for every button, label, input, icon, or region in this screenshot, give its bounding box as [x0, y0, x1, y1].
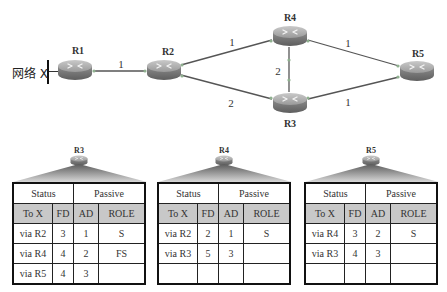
cell-via: via R5: [13, 264, 53, 285]
router-icon-r5[interactable]: [399, 60, 435, 82]
cell-via: via R2: [158, 224, 198, 244]
network-topology: 网络 X R1 R2 R4 R3 R5 1 1 2 2 1 1: [0, 0, 447, 150]
link-r4-r5: [308, 40, 399, 66]
header-to-x: To X: [13, 204, 53, 224]
header-role: ROLE: [391, 204, 438, 224]
link-cost-r2-r4: 1: [229, 36, 235, 48]
cell-ad: 3: [366, 244, 391, 264]
cell-fd: 4: [53, 264, 74, 285]
cell-fd: 5: [198, 244, 219, 264]
link-cost-r3-r5: 1: [345, 96, 351, 108]
table-router-label: R4: [219, 146, 229, 155]
header-fd: FD: [345, 204, 366, 224]
table-row: via R2 2 1 S: [158, 224, 290, 244]
cell-via: via R4: [305, 224, 345, 244]
link-r2-r4: [181, 40, 272, 65]
cell-fd: [345, 264, 366, 285]
cell-role: [244, 264, 291, 285]
table-router-label: R5: [366, 146, 376, 155]
table-row: via R2 3 1 S: [13, 224, 145, 244]
table-router-label: R3: [74, 146, 84, 155]
link-cost-r4-r3: 2: [275, 65, 281, 77]
cell-fd: [198, 264, 219, 285]
router-label-r3: R3: [284, 118, 296, 129]
header-role: ROLE: [244, 204, 291, 224]
cell-role: [99, 264, 146, 285]
table-header-router-r3: R3: [12, 146, 148, 182]
cell-fd: 4: [345, 244, 366, 264]
status-value: Passive: [74, 183, 146, 204]
cell-fd: 2: [198, 224, 219, 244]
routing-table: Status Passive To X FD AD ROLE via R2 2 …: [157, 182, 291, 285]
cell-ad: 3: [74, 264, 99, 285]
cell-ad: 2: [74, 244, 99, 264]
topology-table-r4: R4 Status Passive To X FD AD ROLE via R2…: [157, 146, 293, 285]
link-cost-r2-r3: 2: [228, 97, 234, 109]
cell-via: via R4: [13, 244, 53, 264]
link-cost-r4-r5: 1: [345, 37, 351, 49]
link-r3-r5: [308, 77, 399, 99]
router-icon-r4[interactable]: [272, 25, 308, 47]
cell-via: [158, 264, 198, 285]
cell-role: FS: [99, 244, 146, 264]
network-x-label: 网络 X: [12, 64, 48, 81]
table-row: via R3 4 3: [305, 244, 437, 264]
cell-via: via R3: [158, 244, 198, 264]
cell-role: [391, 264, 438, 285]
router-label-r5: R5: [412, 48, 424, 59]
cell-fd: 3: [345, 224, 366, 244]
cell-ad: 2: [366, 224, 391, 244]
cell-role: [391, 244, 438, 264]
header-role: ROLE: [99, 204, 146, 224]
router-icon-r2[interactable]: [146, 59, 182, 81]
fan-shape: [157, 164, 293, 182]
cell-via: via R3: [305, 244, 345, 264]
topology-table-r3: R3 Status Passive To X FD AD ROLE via R2…: [12, 146, 148, 285]
router-label-r1: R1: [72, 45, 84, 56]
cell-ad: 3: [219, 244, 244, 264]
table-row: [305, 264, 437, 285]
router-label-r4: R4: [284, 12, 296, 23]
header-to-x: To X: [158, 204, 198, 224]
cell-role: [244, 244, 291, 264]
header-ad: AD: [74, 204, 99, 224]
fan-shape: [12, 164, 148, 182]
header-ad: AD: [219, 204, 244, 224]
header-ad: AD: [366, 204, 391, 224]
router-icon-r3[interactable]: [272, 92, 308, 114]
table-row: [158, 264, 290, 285]
cell-ad: [219, 264, 244, 285]
header-to-x: To X: [305, 204, 345, 224]
router-icon-r1[interactable]: [57, 59, 93, 81]
cell-role: S: [244, 224, 291, 244]
status-label: Status: [158, 183, 219, 204]
link-cost-r1-r2: 1: [118, 58, 124, 70]
status-value: Passive: [366, 183, 438, 204]
table-row: via R4 4 2 FS: [13, 244, 145, 264]
cell-fd: 3: [53, 224, 74, 244]
table-header-router-r4: R4: [157, 146, 293, 182]
header-fd: FD: [53, 204, 74, 224]
router-label-r2: R2: [162, 46, 174, 57]
cell-ad: 1: [74, 224, 99, 244]
status-label: Status: [305, 183, 366, 204]
status-value: Passive: [219, 183, 291, 204]
cell-role: S: [391, 224, 438, 244]
topology-table-r5: R5 Status Passive To X FD AD ROLE via R4…: [304, 146, 440, 285]
table-row: via R5 4 3: [13, 264, 145, 285]
table-row: via R4 3 2 S: [305, 224, 437, 244]
routing-table: Status Passive To X FD AD ROLE via R4 3 …: [304, 182, 438, 285]
cell-fd: 4: [53, 244, 74, 264]
cell-via: [305, 264, 345, 285]
header-fd: FD: [198, 204, 219, 224]
status-label: Status: [13, 183, 74, 204]
cell-ad: 1: [219, 224, 244, 244]
cell-ad: [366, 264, 391, 285]
table-row: via R3 5 3: [158, 244, 290, 264]
table-header-router-r5: R5: [304, 146, 440, 182]
routing-table: Status Passive To X FD AD ROLE via R2 3 …: [12, 182, 146, 285]
link-r2-r3: [181, 75, 272, 99]
cell-via: via R2: [13, 224, 53, 244]
cell-role: S: [99, 224, 146, 244]
fan-shape: [304, 164, 440, 182]
